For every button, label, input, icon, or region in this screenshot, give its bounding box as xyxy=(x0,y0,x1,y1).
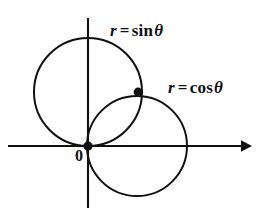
origin-label: 0 xyxy=(75,148,83,164)
cos-label-equals: = xyxy=(176,78,190,97)
curve-label-cos: r=cosθ xyxy=(168,79,223,96)
curve-label-sin: r=sinθ xyxy=(110,22,163,39)
origin-point-dot xyxy=(83,141,92,150)
sin-label-function: sin xyxy=(132,21,154,40)
x-axis xyxy=(8,140,252,152)
intersection-point-dot xyxy=(134,88,143,97)
sin-label-angle: θ xyxy=(154,21,163,40)
sin-label-variable: r xyxy=(110,21,118,40)
sin-label-equals: = xyxy=(118,21,132,40)
x-axis-arrowhead xyxy=(241,140,252,152)
cos-label-function: cos xyxy=(190,78,214,97)
cos-label-angle: θ xyxy=(214,78,223,97)
polar-figure: r=sinθ r=cosθ 0 xyxy=(0,0,260,218)
cos-label-variable: r xyxy=(168,78,176,97)
